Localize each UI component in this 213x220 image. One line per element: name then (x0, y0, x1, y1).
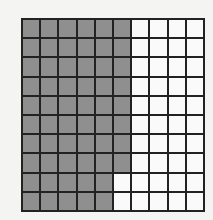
unshaded-cell (132, 154, 148, 171)
unshaded-cell (169, 20, 185, 37)
shaded-cell (96, 193, 112, 210)
unshaded-cell (114, 174, 130, 191)
unshaded-cell (132, 97, 148, 114)
shaded-cell (78, 39, 94, 56)
shaded-cell (41, 97, 57, 114)
unshaded-cell (169, 78, 185, 95)
shaded-cell (59, 58, 75, 75)
unshaded-cell (169, 39, 185, 56)
shaded-cell (23, 154, 39, 171)
unshaded-cell (187, 39, 203, 56)
unshaded-cell (169, 58, 185, 75)
unshaded-cell (187, 58, 203, 75)
unshaded-cell (150, 154, 166, 171)
unshaded-cell (150, 58, 166, 75)
unshaded-cell (169, 154, 185, 171)
hundred-grid (21, 18, 205, 212)
unshaded-cell (132, 39, 148, 56)
shaded-cell (41, 154, 57, 171)
shaded-cell (78, 116, 94, 133)
unshaded-cell (150, 97, 166, 114)
shaded-cell (96, 39, 112, 56)
unshaded-cell (150, 193, 166, 210)
shaded-cell (59, 154, 75, 171)
shaded-cell (23, 39, 39, 56)
unshaded-cell (187, 78, 203, 95)
shaded-cell (41, 78, 57, 95)
shaded-cell (96, 58, 112, 75)
shaded-cell (114, 116, 130, 133)
unshaded-cell (150, 135, 166, 152)
shaded-cell (114, 39, 130, 56)
shaded-cell (114, 58, 130, 75)
unshaded-cell (169, 97, 185, 114)
shaded-cell (114, 97, 130, 114)
shaded-cell (78, 193, 94, 210)
unshaded-cell (132, 174, 148, 191)
shaded-cell (114, 78, 130, 95)
unshaded-cell (150, 78, 166, 95)
shaded-cell (23, 78, 39, 95)
shaded-cell (96, 154, 112, 171)
shaded-cell (23, 116, 39, 133)
unshaded-cell (132, 135, 148, 152)
shaded-cell (23, 58, 39, 75)
shaded-cell (41, 20, 57, 37)
shaded-cell (23, 135, 39, 152)
unshaded-cell (187, 135, 203, 152)
shaded-cell (96, 20, 112, 37)
shaded-cell (114, 154, 130, 171)
shaded-cell (59, 97, 75, 114)
shaded-cell (23, 97, 39, 114)
shaded-cell (59, 20, 75, 37)
shaded-cell (78, 20, 94, 37)
unshaded-cell (132, 20, 148, 37)
unshaded-cell (187, 97, 203, 114)
shaded-cell (78, 78, 94, 95)
shaded-cell (41, 135, 57, 152)
unshaded-cell (150, 20, 166, 37)
shaded-cell (23, 174, 39, 191)
shaded-cell (96, 97, 112, 114)
shaded-cell (41, 116, 57, 133)
shaded-cell (96, 135, 112, 152)
unshaded-cell (187, 154, 203, 171)
unshaded-cell (132, 193, 148, 210)
shaded-cell (78, 154, 94, 171)
shaded-cell (78, 174, 94, 191)
shaded-cell (23, 20, 39, 37)
unshaded-cell (150, 116, 166, 133)
unshaded-cell (114, 193, 130, 210)
shaded-cell (78, 97, 94, 114)
unshaded-cell (187, 20, 203, 37)
unshaded-cell (169, 193, 185, 210)
shaded-cell (41, 174, 57, 191)
shaded-cell (78, 58, 94, 75)
shaded-cell (59, 116, 75, 133)
shaded-cell (114, 20, 130, 37)
unshaded-cell (132, 116, 148, 133)
shaded-cell (96, 174, 112, 191)
unshaded-cell (150, 39, 166, 56)
unshaded-cell (169, 135, 185, 152)
shaded-cell (78, 135, 94, 152)
shaded-cell (41, 58, 57, 75)
unshaded-cell (132, 78, 148, 95)
shaded-cell (59, 39, 75, 56)
unshaded-cell (132, 58, 148, 75)
unshaded-cell (150, 174, 166, 191)
unshaded-cell (187, 174, 203, 191)
shaded-cell (96, 116, 112, 133)
shaded-cell (41, 193, 57, 210)
shaded-cell (41, 39, 57, 56)
unshaded-cell (187, 193, 203, 210)
shaded-cell (59, 78, 75, 95)
shaded-cell (59, 174, 75, 191)
unshaded-cell (169, 174, 185, 191)
shaded-cell (96, 78, 112, 95)
shaded-cell (23, 193, 39, 210)
shaded-cell (114, 135, 130, 152)
unshaded-cell (169, 116, 185, 133)
unshaded-cell (187, 116, 203, 133)
shaded-cell (59, 135, 75, 152)
